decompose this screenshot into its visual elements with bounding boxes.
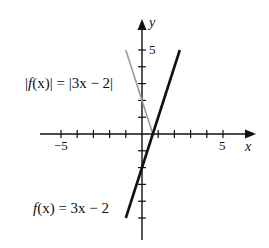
series-abs-f xyxy=(126,50,153,134)
y-tick-label-5: 5 xyxy=(149,42,156,57)
annotation-abs-f: |f(x)| = |3x − 2| xyxy=(25,75,113,92)
y-axis xyxy=(138,19,147,240)
x-tick-label-neg5: −5 xyxy=(54,138,68,153)
y-axis-label: y xyxy=(147,15,156,30)
y-axis-arrow-icon xyxy=(138,19,147,30)
graph: −5 5 5 x y |f(x)| = |3x − 2| f(x) = 3x −… xyxy=(0,0,269,248)
x-axis-arrow-icon xyxy=(245,130,256,139)
annotation-f: f(x) = 3x − 2 xyxy=(33,200,109,217)
x-axis-label: x xyxy=(244,139,252,154)
x-tick-label-5: 5 xyxy=(219,138,226,153)
